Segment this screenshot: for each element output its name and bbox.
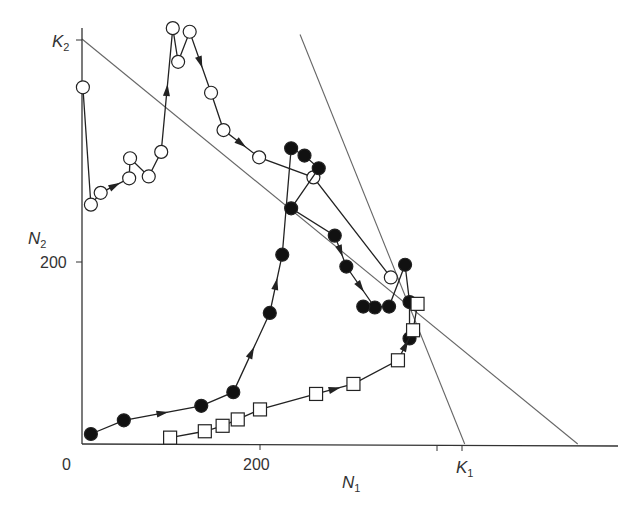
direction-arrow-icon — [246, 346, 257, 360]
open-circle-marker — [172, 55, 185, 68]
open-circle-marker — [217, 124, 230, 137]
species-2-isocline — [82, 39, 578, 444]
open-circle-marker — [155, 145, 168, 158]
phase-plane-chart: 0 200 K1 N1 200 K2 N2 — [0, 0, 638, 521]
direction-arrow-icon — [108, 180, 122, 192]
square-marker — [310, 387, 323, 400]
open-circle-marker — [142, 170, 155, 183]
filled-circle-marker — [357, 300, 370, 313]
square-marker — [407, 324, 420, 337]
square-marker — [216, 419, 229, 432]
open-circle-marker — [166, 22, 179, 35]
x-axis — [82, 444, 618, 446]
filled-circle-marker — [340, 260, 353, 273]
trajectory-line — [170, 304, 417, 438]
square-marker — [347, 377, 360, 390]
direction-arrow-icon — [271, 277, 280, 290]
trajectories — [76, 22, 424, 445]
filled-circle-marker — [227, 386, 240, 399]
filled-circle-marker — [285, 142, 298, 155]
filled-circle-marker — [276, 248, 289, 261]
square-marker — [198, 425, 211, 438]
x-tick-label-0: 0 — [62, 456, 71, 473]
x-tick-label-200: 200 — [243, 456, 270, 473]
open-circle-marker — [94, 186, 107, 199]
species-1-isocline — [300, 35, 465, 445]
open-circle-marker — [124, 152, 137, 165]
open-circle-marker — [123, 172, 136, 185]
y-tick-label-k2: K2 — [52, 32, 69, 53]
direction-arrow-icon — [156, 409, 169, 418]
filled-circle-marker — [195, 399, 208, 412]
direction-arrow-icon — [354, 280, 367, 294]
filled-circle-marker — [312, 162, 325, 175]
filled-circle-marker — [285, 202, 298, 215]
trajectory-line — [91, 148, 410, 434]
open-circles-series — [76, 22, 397, 284]
open-circle-marker — [84, 198, 97, 211]
square-marker — [391, 354, 404, 367]
filled-circle-marker — [84, 427, 97, 440]
open-circle-marker — [205, 86, 218, 99]
direction-arrow-icon — [195, 55, 206, 69]
open-circle-marker — [183, 25, 196, 38]
open-circle-marker — [76, 81, 89, 94]
direction-arrow-icon — [335, 244, 346, 258]
axes: 0 200 K1 N1 200 K2 N2 — [28, 28, 618, 494]
filled-circle-marker — [383, 300, 396, 313]
y-axis-label: N2 — [28, 229, 46, 250]
direction-arrow-icon — [163, 84, 171, 97]
y-tick-label-200: 200 — [40, 254, 67, 271]
filled-circle-marker — [328, 229, 341, 242]
square-marker — [231, 413, 244, 426]
direction-arrow-icon — [328, 384, 341, 394]
x-axis-label: N1 — [342, 473, 360, 494]
filled-circle-marker — [399, 258, 412, 271]
x-tick-label-k1: K1 — [456, 458, 473, 479]
square-marker — [164, 431, 177, 444]
filled-circle-marker — [117, 414, 130, 427]
square-marker — [411, 297, 424, 310]
filled-circle-marker — [298, 149, 311, 162]
open-squares-series — [164, 297, 424, 444]
open-circle-marker — [253, 151, 266, 164]
open-circle-marker — [384, 271, 397, 284]
filled-circles-series — [84, 142, 416, 441]
square-marker — [254, 403, 267, 416]
filled-circle-marker — [263, 306, 276, 319]
